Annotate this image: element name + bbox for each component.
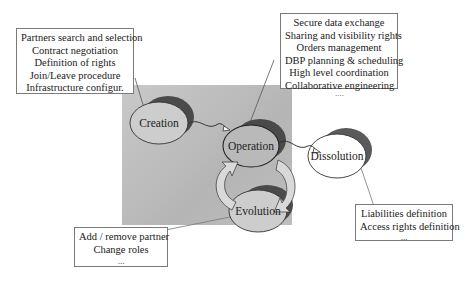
- operation-more-ellipsis: ....: [335, 88, 344, 98]
- evolution-activity: Add / remove partner: [79, 231, 163, 244]
- creation-activity: Join/Leave procedure: [21, 70, 129, 83]
- evolution-activity: Change roles: [79, 244, 163, 257]
- operation-activity: Orders management: [285, 42, 393, 55]
- operation-label: Operation: [228, 140, 274, 152]
- dissolution-activity: Liabilities definition: [360, 208, 448, 221]
- evolution-more-ellipsis: ...: [79, 256, 163, 266]
- creation-activities-box: Partners search and selection Contract n…: [16, 28, 134, 94]
- evolution-label: Evolution: [235, 205, 280, 217]
- dissolution-more-ellipsis: ...: [360, 233, 448, 241]
- creation-activity: Infrastructure configur.: [21, 82, 129, 95]
- evolution-to-operation-arrow-icon: [216, 162, 238, 210]
- operation-activity: High level coordination: [285, 67, 393, 80]
- evolution-activities-box: Add / remove partner Change roles ...: [74, 227, 168, 267]
- operation-activity: DBP planning & scheduling: [285, 55, 393, 68]
- operation-activity: Secure data exchange: [285, 17, 393, 30]
- creation-activity: Definition of rights: [21, 57, 129, 70]
- operation-activity: Sharing and visibility rights: [285, 30, 393, 43]
- dissolution-label: Dissolution: [310, 150, 363, 162]
- creation-label: Creation: [139, 117, 179, 129]
- dissolution-activities-box: Liabilities definition Access rights def…: [355, 204, 453, 241]
- operation-activities-box: Secure data exchange Sharing and visibil…: [280, 13, 398, 89]
- creation-to-operation-arrow-icon: [188, 122, 228, 130]
- creation-activity: Contract negotiation: [21, 45, 129, 58]
- creation-activity: Partners search and selection: [21, 32, 129, 45]
